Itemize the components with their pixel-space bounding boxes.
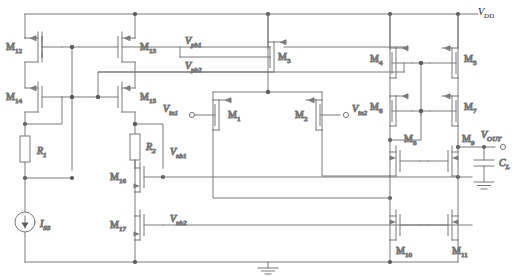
label-M6: M6: [370, 101, 383, 115]
label-M2: M2: [295, 109, 308, 123]
label-M7: M7: [464, 101, 477, 115]
label-M10: M10: [396, 245, 412, 259]
label-ISS: ISS: [39, 218, 51, 232]
node-gnd-m17: [133, 260, 137, 264]
junction-dots: [70, 45, 423, 180]
transistor-M2: [306, 98, 340, 130]
label-M4: M4: [370, 53, 383, 67]
m1-drain-wire: [213, 130, 390, 198]
terminal-vin1[interactable]: [189, 112, 194, 117]
label-Vpb1: Vpb1: [185, 35, 202, 49]
schematic-canvas: M12 M14 R1: [0, 0, 524, 276]
label-Vin2: Vin2: [352, 103, 368, 117]
vpb1-bus: [122, 47, 404, 57]
label-M16: M16: [110, 171, 126, 185]
terminal-vout[interactable]: [500, 144, 505, 149]
transistor-M16: [134, 160, 164, 192]
label-M9: M9: [462, 133, 475, 147]
label-M12: M12: [6, 41, 22, 55]
m2-drain-wire: [322, 130, 390, 176]
ground-rail: [25, 262, 458, 274]
label-R1: R1: [36, 145, 47, 159]
transistor-M17: [134, 210, 164, 262]
transistor-M4: [390, 14, 412, 78]
circuit-svg: M12 M14 R1: [0, 0, 524, 276]
resistor-R1: [20, 124, 30, 178]
label-M3: M3: [278, 51, 291, 65]
transistor-M15: [98, 82, 135, 112]
label-R2: R2: [145, 141, 156, 155]
transistor-M3: [180, 14, 286, 92]
label-Vnb2: Vnb2: [170, 213, 187, 227]
label-M11: M11: [452, 245, 468, 259]
m14-gate-feedback: [25, 97, 62, 124]
transistor-M7: [430, 78, 458, 126]
transistor-M1: [195, 98, 231, 130]
transistor-M6: [390, 78, 412, 126]
label-CL: CL: [499, 157, 510, 171]
label-M14: M14: [6, 91, 22, 105]
label-VDD: VDD: [478, 6, 494, 20]
node-vout: [456, 145, 460, 149]
vdd-rail: [25, 14, 478, 48]
node-gnd-m10: [388, 260, 392, 264]
capacitor-CL: [474, 147, 494, 189]
label-Vin1: Vin1: [163, 103, 178, 117]
label-M5: M5: [464, 53, 477, 67]
label-M1: M1: [228, 109, 241, 123]
transistor-M12: [25, 32, 62, 62]
transistor-M14: [25, 82, 62, 112]
label-M17: M17: [110, 219, 126, 233]
pbias-bus-left: [62, 47, 72, 170]
label-Vpb2: Vpb2: [185, 60, 202, 74]
label-M13: M13: [140, 41, 156, 55]
transistor-M9: [428, 146, 459, 176]
m4m5-gate-tie: [412, 63, 430, 115]
current-source-ISS: [15, 178, 35, 262]
label-M15: M15: [140, 91, 156, 105]
label-M8: M8: [404, 133, 417, 147]
m15-gate-wire: [98, 72, 268, 97]
label-Vnb1: Vnb1: [170, 146, 187, 160]
label-Vout: VOUT: [481, 129, 502, 143]
transistor-M5: [430, 14, 458, 78]
terminal-vin2[interactable]: [343, 112, 348, 117]
